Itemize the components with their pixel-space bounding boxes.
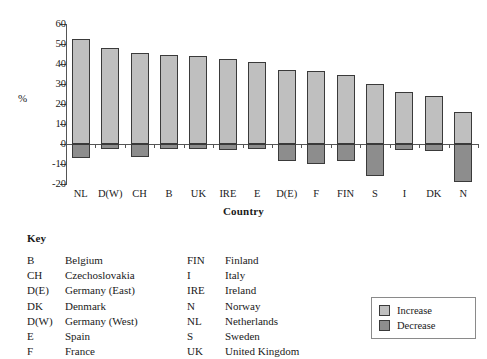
key-section: Key BBelgiumCHCzechoslovakiaD(E)Germany … xyxy=(27,232,467,359)
bar-decrease xyxy=(337,144,355,161)
x-axis-tick xyxy=(331,144,332,148)
y-axis-tick-label: 20 xyxy=(20,99,66,109)
key-country-name: United Kingdom xyxy=(225,344,362,359)
x-axis-tick xyxy=(95,144,96,148)
legend-swatch xyxy=(379,320,390,331)
bar-increase xyxy=(101,48,119,144)
bar-decrease xyxy=(307,144,325,164)
key-country-name: Spain xyxy=(65,329,187,344)
key-row: D(W)Germany (West) xyxy=(27,314,187,329)
legend-label: Increase xyxy=(397,305,432,316)
x-axis-tick xyxy=(390,144,391,148)
key-country-name: Germany (West) xyxy=(65,314,187,329)
key-country-name: Italy xyxy=(225,268,362,283)
bar-chart: % 6050403020100-10-20 NLD(W)CHBUKIREED(E… xyxy=(0,0,487,228)
key-country-name: Ireland xyxy=(225,283,362,298)
key-country-name: Norway xyxy=(225,299,362,314)
legend-item: Increase xyxy=(379,303,475,318)
bar-increase xyxy=(307,71,325,144)
x-axis-tick xyxy=(449,144,450,148)
bar-increase xyxy=(160,55,178,144)
key-abbreviation: F xyxy=(27,344,65,359)
bar-decrease xyxy=(366,144,384,176)
key-abbreviation: IRE xyxy=(187,283,225,298)
key-row: NLNetherlands xyxy=(187,314,362,329)
key-country-name: Germany (East) xyxy=(65,283,187,298)
key-row: NNorway xyxy=(187,299,362,314)
key-abbreviation: CH xyxy=(27,268,65,283)
bar-decrease xyxy=(454,144,472,182)
bar-increase xyxy=(366,84,384,144)
bar-decrease xyxy=(131,144,149,157)
bar-decrease xyxy=(278,144,296,161)
y-axis-tick-label: 10 xyxy=(20,119,66,129)
chart-legend: IncreaseDecrease xyxy=(371,297,476,339)
key-row: UKUnited Kingdom xyxy=(187,344,362,359)
key-country-name: Czechoslovakia xyxy=(65,268,187,283)
x-axis-tick xyxy=(213,144,214,148)
bar-increase xyxy=(219,59,237,144)
key-row: ESpain xyxy=(27,329,187,344)
key-column-right: FINFinlandIItalyIREIrelandNNorwayNLNethe… xyxy=(187,253,362,359)
key-abbreviation: D(W) xyxy=(27,314,65,329)
bar-increase xyxy=(189,56,207,144)
key-country-name: France xyxy=(65,344,187,359)
key-country-name: Netherlands xyxy=(225,314,362,329)
bar-increase xyxy=(72,39,90,144)
bar-decrease xyxy=(101,144,119,149)
x-axis-tick xyxy=(243,144,244,148)
bar-increase xyxy=(454,112,472,144)
key-abbreviation: D(E) xyxy=(27,283,65,298)
key-abbreviation: UK xyxy=(187,344,225,359)
y-axis-tick-label: 0 xyxy=(20,139,66,149)
key-row: CHCzechoslovakia xyxy=(27,268,187,283)
bar-decrease xyxy=(248,144,266,149)
bar-decrease xyxy=(72,144,90,158)
bar-increase xyxy=(337,75,355,144)
bar-increase xyxy=(278,70,296,144)
key-column-left: BBelgiumCHCzechoslovakiaD(E)Germany (Eas… xyxy=(27,253,187,359)
legend-item: Decrease xyxy=(379,318,475,333)
x-axis-tick xyxy=(125,144,126,148)
key-country-name: Sweden xyxy=(225,329,362,344)
key-country-name: Belgium xyxy=(65,253,187,268)
x-axis-tick xyxy=(154,144,155,148)
x-axis-tick xyxy=(184,144,185,148)
key-country-name: Finland xyxy=(225,253,362,268)
key-row: D(E)Germany (East) xyxy=(27,283,187,298)
key-abbreviation: FIN xyxy=(187,253,225,268)
y-axis-tick-label: 50 xyxy=(20,39,66,49)
y-axis-tick-label: 30 xyxy=(20,79,66,89)
key-row: FINFinland xyxy=(187,253,362,268)
bar-decrease xyxy=(395,144,413,150)
bar-increase xyxy=(425,96,443,144)
key-row: BBelgium xyxy=(27,253,187,268)
key-title: Key xyxy=(27,232,467,244)
x-axis-tick xyxy=(360,144,361,148)
key-abbreviation: B xyxy=(27,253,65,268)
bar-increase xyxy=(248,62,266,144)
bar-increase xyxy=(395,92,413,144)
x-axis-title: Country xyxy=(0,205,487,217)
x-axis-tick xyxy=(419,144,420,148)
legend-swatch xyxy=(379,305,390,316)
y-axis-tick-label: 40 xyxy=(20,59,66,69)
x-axis-tick xyxy=(272,144,273,148)
y-axis-tick-label: 60 xyxy=(20,19,66,29)
key-abbreviation: DK xyxy=(27,299,65,314)
key-row: DKDenmark xyxy=(27,299,187,314)
y-axis-line xyxy=(66,24,67,185)
key-row: IItaly xyxy=(187,268,362,283)
bar-decrease xyxy=(160,144,178,149)
key-abbreviation: I xyxy=(187,268,225,283)
y-axis-tick-label: -10 xyxy=(20,159,66,169)
key-row: IREIreland xyxy=(187,283,362,298)
x-axis-tick xyxy=(478,144,479,148)
key-abbreviation: N xyxy=(187,299,225,314)
key-country-name: Denmark xyxy=(65,299,187,314)
key-abbreviation: S xyxy=(187,329,225,344)
x-axis-tick xyxy=(301,144,302,148)
bar-decrease xyxy=(189,144,207,149)
key-abbreviation: NL xyxy=(187,314,225,329)
x-axis-tick-label: N xyxy=(439,188,487,199)
